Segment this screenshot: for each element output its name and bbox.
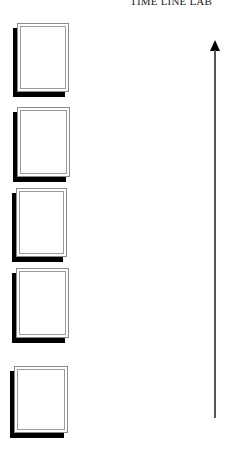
page-title: TIME LINE LAB: [130, 0, 212, 7]
frame-box: [16, 188, 67, 257]
timeline-axis: [214, 50, 216, 418]
timeline-frame-1: [13, 23, 69, 98]
timeline-frame-5: [10, 366, 68, 439]
frame-box: [17, 107, 70, 177]
frame-box: [14, 366, 68, 433]
frame-box: [17, 23, 69, 92]
frame-box: [16, 268, 69, 338]
timeline-frame-2: [13, 107, 70, 183]
timeline-frame-3: [12, 188, 67, 263]
timeline-frame-4: [12, 268, 69, 344]
